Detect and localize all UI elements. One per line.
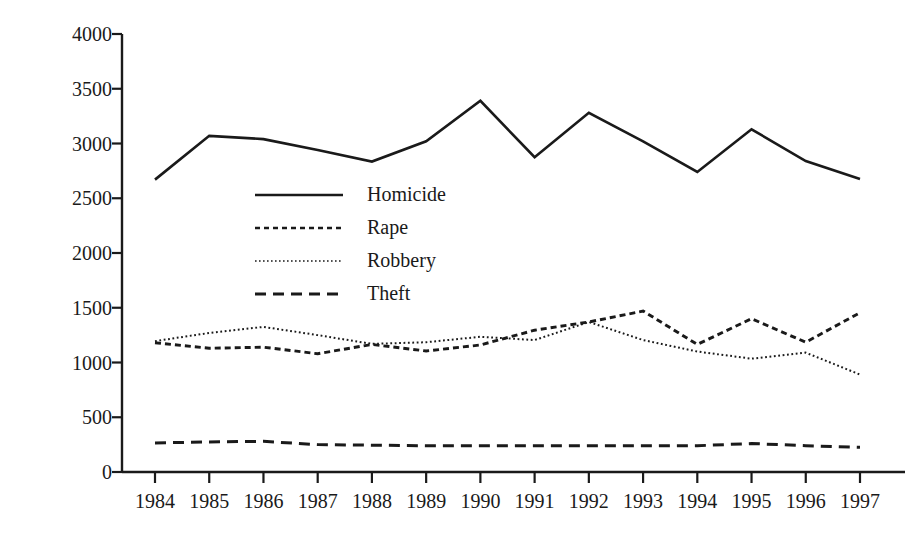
legend-label-rape: Rape — [367, 216, 408, 239]
legend-swatch-dashed-long — [253, 287, 345, 301]
line-chart: Sentence length (in days) 05001000150020… — [0, 0, 913, 538]
legend-item-theft: Theft — [253, 277, 513, 310]
legend-item-rape: Rape — [253, 211, 513, 244]
x-axis-ticks — [155, 472, 860, 483]
legend-label-robbery: Robbery — [367, 249, 436, 272]
y-axis-ticks — [112, 34, 122, 472]
legend-item-homicide: Homicide — [253, 178, 513, 211]
series-line-theft — [155, 441, 860, 447]
series-line-robbery — [155, 322, 860, 375]
series-line-rape — [155, 311, 860, 354]
legend-label-theft: Theft — [367, 282, 410, 305]
legend-swatch-dotted — [253, 254, 345, 268]
legend-swatch-dashed-small — [253, 221, 345, 235]
axis-lines — [122, 34, 905, 472]
legend-item-robbery: Robbery — [253, 244, 513, 277]
legend-label-homicide: Homicide — [367, 183, 446, 206]
legend-swatch-solid — [253, 188, 345, 202]
chart-legend: Homicide Rape Robbery Theft — [253, 178, 513, 310]
series-line-homicide — [155, 101, 860, 180]
